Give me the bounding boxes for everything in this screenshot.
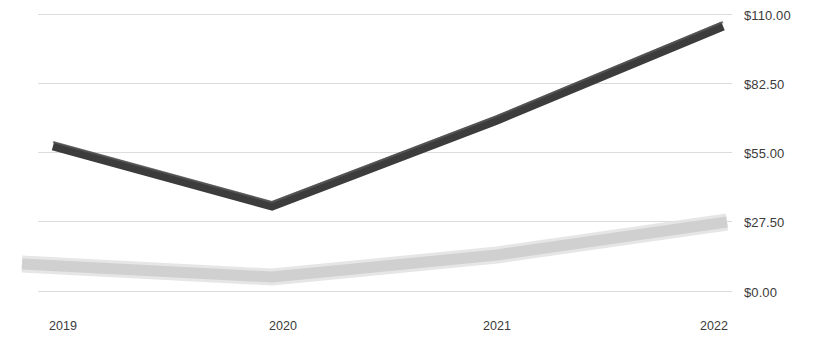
series-light-series [22,222,727,277]
y-axis-label-0: $0.00 [744,286,777,299]
y-axis-label-27-50: $27.50 [744,216,784,229]
y-axis-label-82-50: $82.50 [744,78,784,91]
x-axis-label-2022: 2022 [700,320,728,333]
series-dark-series-line [53,26,723,206]
y-axis-label-55: $55.00 [744,147,784,160]
line-chart: $110.00 $82.50 $55.00 $27.50 $0.00 2019 … [0,0,813,339]
x-axis-label-2021: 2021 [483,320,511,333]
chart-plot-area [0,0,813,339]
gridlines [38,15,732,292]
x-axis-label-2020: 2020 [269,320,297,333]
y-axis-label-110: $110.00 [744,9,791,22]
series-dark-series [53,22,723,206]
x-axis-label-2019: 2019 [49,320,77,333]
